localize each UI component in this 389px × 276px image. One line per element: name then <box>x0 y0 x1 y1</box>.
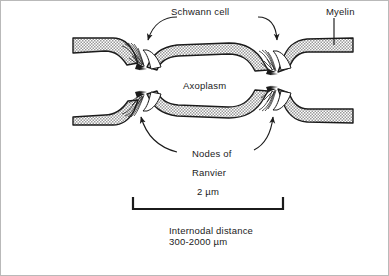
node-cleft-lower-right <box>266 85 278 92</box>
schwann-right-leader-arrow[interactable] <box>258 17 277 40</box>
nodes-right-leader-arrow[interactable] <box>254 117 273 150</box>
label-schwann-cell: Schwann cell <box>171 6 229 17</box>
label-myelin: Myelin <box>326 6 355 17</box>
label-axoplasm: Axoplasm <box>183 80 226 91</box>
label-internodal-range: 300-2000 µm <box>169 236 227 247</box>
upper-nerve-fiber <box>73 38 353 76</box>
nodes-left-leader-arrow[interactable] <box>141 117 177 152</box>
myelin-segment-lower-center <box>147 90 268 118</box>
myelin-diagram-figure: Schwann cell Myelin Axoplasm Nodes of Ra… <box>0 0 389 276</box>
label-ranvier: Ranvier <box>192 167 226 178</box>
lower-nerve-fiber <box>73 85 353 125</box>
myelin-segment-lower-left <box>73 100 138 125</box>
node-cleft-upper-right <box>266 69 278 76</box>
scale-bar <box>133 197 283 209</box>
label-nodes-of: Nodes of <box>192 148 232 159</box>
myelin-segment-upper-center <box>147 43 268 71</box>
label-scale-value: 2 µm <box>197 186 219 197</box>
label-internodal-distance: Internodal distance <box>169 225 253 236</box>
myelin-segment-upper-left <box>73 38 138 65</box>
schwann-left-leader-arrow[interactable] <box>148 17 177 40</box>
